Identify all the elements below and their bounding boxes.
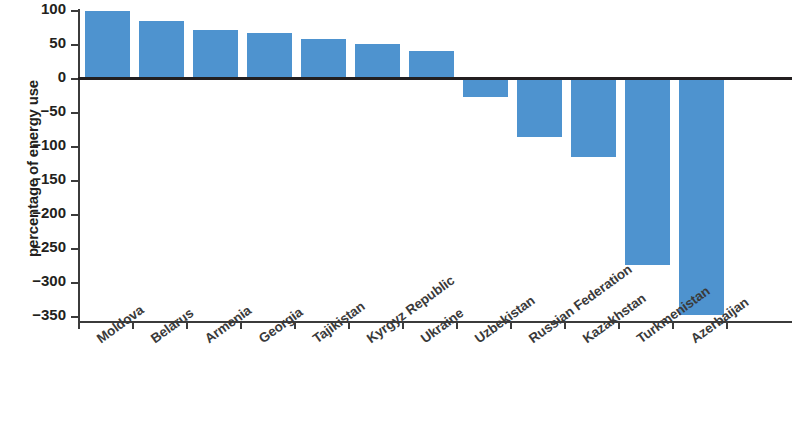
y-tick-mark	[71, 180, 78, 182]
y-tick-mark	[71, 10, 78, 12]
y-tick-label: −250	[32, 238, 66, 255]
y-tick-label: −200	[32, 204, 66, 221]
x-axis-label: Georgia	[256, 304, 306, 346]
y-tick-label: −350	[32, 306, 66, 323]
x-axis-label: Belarus	[148, 305, 196, 346]
x-axis-label: Uzbekistan	[472, 293, 538, 346]
bar	[463, 78, 508, 97]
bar	[679, 78, 724, 315]
bar	[625, 78, 670, 265]
y-tick-mark	[71, 112, 78, 114]
y-tick-label: 100	[41, 0, 66, 17]
bar	[517, 78, 562, 137]
bar	[355, 44, 400, 78]
y-tick-label: −50	[41, 102, 66, 119]
y-tick-mark	[71, 78, 78, 80]
y-tick-mark	[71, 214, 78, 216]
y-tick-mark	[71, 146, 78, 148]
x-axis-label: Moldova	[94, 302, 147, 346]
y-axis-line	[78, 9, 80, 323]
y-tick-label: 0	[58, 68, 66, 85]
y-tick-label: 50	[49, 34, 66, 51]
x-tick-mark	[78, 322, 80, 329]
y-tick-mark	[71, 316, 78, 318]
y-tick-mark	[71, 282, 78, 284]
y-tick-mark	[71, 44, 78, 46]
x-axis-label: Armenia	[202, 303, 254, 346]
bar	[139, 21, 184, 78]
x-axis-label: Kyrgyz Republic	[364, 273, 457, 346]
bar	[301, 39, 346, 78]
bar-chart: percentage of energy use 100500−50−100−1…	[0, 0, 792, 446]
x-axis-label: Ukraine	[418, 305, 466, 346]
bar	[85, 11, 130, 78]
y-tick-mark	[71, 248, 78, 250]
y-tick-label: −100	[32, 136, 66, 153]
bar	[571, 78, 616, 157]
y-tick-label: −300	[32, 272, 66, 289]
bar	[409, 51, 454, 78]
y-tick-label: −150	[32, 170, 66, 187]
zero-baseline	[78, 77, 792, 80]
bar	[247, 33, 292, 78]
bar	[193, 30, 238, 78]
